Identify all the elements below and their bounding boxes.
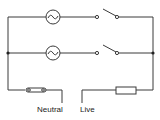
switch-contact-icon: [95, 51, 98, 54]
junction-dot: [151, 51, 154, 54]
live-label: Live: [80, 106, 95, 114]
branch-1: [8, 9, 153, 24]
switch-contact-icon: [115, 15, 118, 18]
neutral-branch: [8, 88, 62, 103]
circuit-diagram: [0, 0, 160, 120]
branch-2: [8, 45, 153, 60]
switch-lever-icon: [103, 45, 116, 52]
switch-contact-icon: [95, 15, 98, 18]
fuse-icon: [116, 87, 136, 94]
junction-dot: [6, 51, 9, 54]
switch-lever-icon: [103, 9, 116, 16]
live-branch: [82, 87, 153, 103]
switch-contact-icon: [115, 51, 118, 54]
neutral-label: Neutral: [37, 106, 63, 114]
